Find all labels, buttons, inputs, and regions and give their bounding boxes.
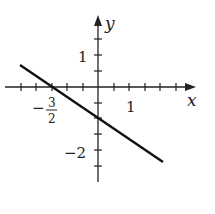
y-axis-label: y <box>104 13 115 33</box>
x-tick-label-minus: − <box>32 99 45 117</box>
x-tick-label-numerator: 3 <box>48 96 56 110</box>
y-axis-arrow-icon <box>94 15 102 26</box>
y-tick-label-1: 1 <box>78 48 88 66</box>
x-tick-label-1: 1 <box>126 98 136 116</box>
y-tick-label-neg2: −2 <box>64 144 86 162</box>
x-tick-label-denominator: 2 <box>48 112 56 126</box>
x-axis-label: x <box>187 90 197 110</box>
graph: y x 1 −2 1 − 3 2 <box>0 0 215 214</box>
